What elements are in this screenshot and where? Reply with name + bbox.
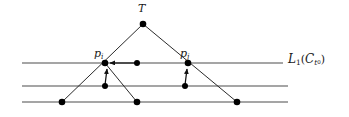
node-bottom-mid [134, 99, 141, 106]
apex-T-node [140, 21, 147, 28]
label-point-pj: pj [180, 48, 189, 60]
label-apex-T: T [138, 3, 145, 14]
label-line-L1-C-t0: L1(Ct0) [288, 53, 325, 66]
label-pj-base: p [180, 47, 187, 60]
label-pi-base: p [94, 47, 101, 60]
node-mid-left [102, 83, 108, 89]
figure-container: T pi pj L1(Ct0) [0, 0, 349, 117]
edge-pi-to-bottom-mid [105, 63, 137, 102]
node-bottom-left [59, 99, 66, 106]
label-apex-T-text: T [138, 2, 145, 15]
label-C-script: C [305, 52, 314, 66]
node-top-mid [134, 60, 140, 66]
arrows-group [105, 63, 187, 85]
node-mid-right [182, 83, 188, 89]
label-pi-subscript: i [101, 52, 103, 61]
node-bottom-right [234, 99, 241, 106]
label-L-script: L [288, 52, 296, 66]
arrow-midright-to-pj [185, 69, 187, 85]
label-pj-subscript: j [187, 52, 189, 61]
label-paren-close: ) [321, 53, 325, 66]
arrow-midleft-to-pi [105, 69, 107, 85]
label-point-pi: pi [94, 48, 103, 60]
horizontal-lines-group [22, 63, 288, 102]
